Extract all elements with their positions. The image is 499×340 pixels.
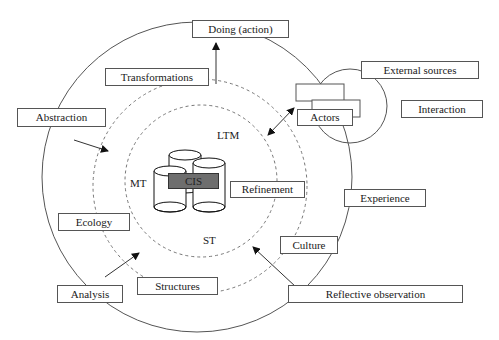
- arrow-actors-double: [268, 108, 294, 135]
- mt-label: MT: [130, 178, 147, 189]
- box-structures: Structures: [137, 277, 218, 295]
- box-doing-action: Doing (action): [192, 20, 289, 38]
- cis-label: CIS: [185, 175, 202, 187]
- box-abstraction: Abstraction: [17, 108, 106, 127]
- box-external-sources: External sources: [361, 61, 479, 79]
- box-analysis: Analysis: [57, 285, 123, 303]
- actors-back-box-1: [296, 84, 344, 101]
- box-culture: Culture: [280, 236, 338, 254]
- box-transformations: Transformations: [105, 68, 209, 86]
- box-experience: Experience: [344, 189, 426, 207]
- box-ecology: Ecology: [58, 213, 130, 231]
- box-interaction: Interaction: [401, 100, 483, 118]
- cis-core: CIS: [168, 173, 219, 189]
- box-refinement: Refinement: [230, 181, 305, 198]
- box-reflective-observation: Reflective observation: [288, 285, 463, 303]
- box-actors: Actors: [297, 109, 353, 126]
- arrow-abstraction: [74, 140, 108, 151]
- st-label: ST: [203, 235, 216, 246]
- ltm-label: LTM: [217, 130, 239, 141]
- arrow-analysis: [105, 253, 139, 277]
